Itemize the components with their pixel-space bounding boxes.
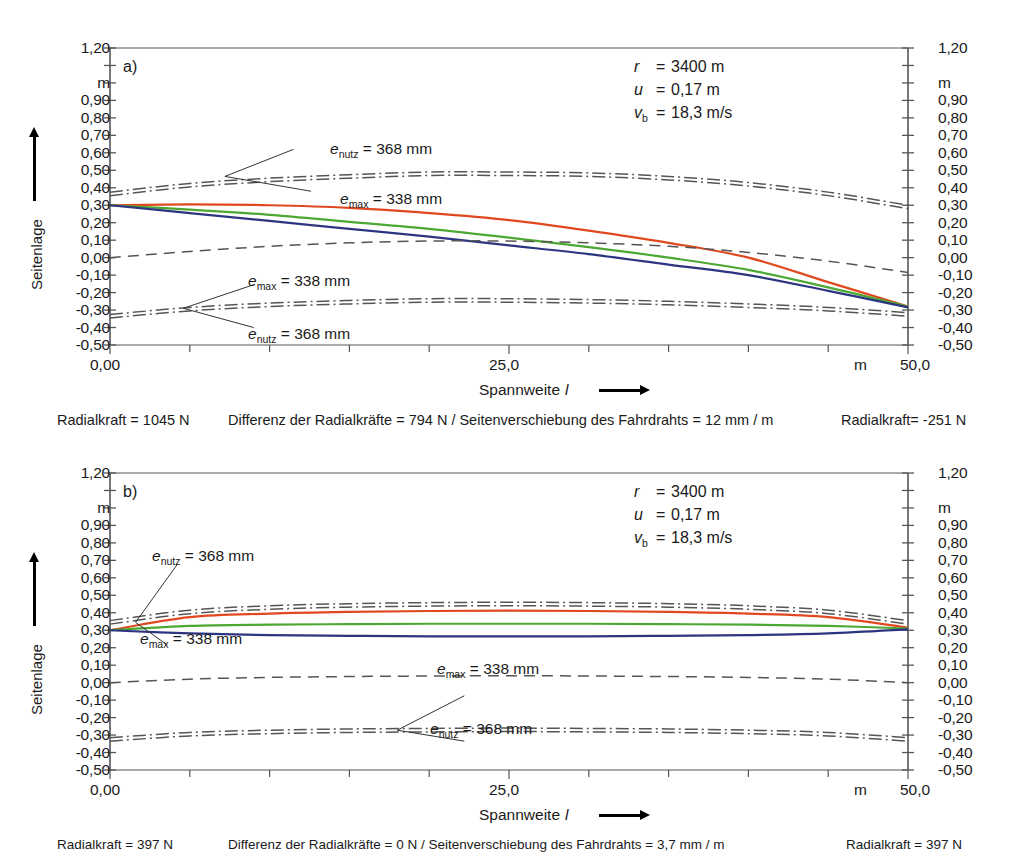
y-tick-label: 0,30 (938, 197, 967, 213)
y-tick-label: 0,90 (938, 517, 967, 533)
annotation-symbol: e (152, 547, 161, 564)
parameter-value-vb-a: 18,3 m/s (671, 104, 732, 121)
caption-left-b: Radialkraft = 397 N (57, 837, 173, 852)
parameter-eq-r-b: = (656, 480, 671, 503)
y-axis-title-a: Seitenlage (28, 219, 45, 290)
parameter-subscript-b-a: b (642, 113, 648, 125)
y-tick-label: 0,20 (938, 215, 967, 231)
annotation-value: = 338 mm (470, 660, 539, 677)
y-tick-label: 0,40 (938, 180, 967, 196)
y-tick-label: 0,90 (81, 517, 110, 533)
y-tick-label: 0,70 (81, 127, 110, 143)
y-tick-label: 1,20 (81, 40, 110, 56)
y-tick-label: 0,50 (81, 162, 110, 178)
y-tick-label: 0,80 (938, 535, 967, 551)
x-axis-title-a: Spannweitel (479, 381, 571, 399)
y-tick-label: -0,40 (76, 745, 110, 761)
parameter-value-vb-b: 18,3 m/s (671, 529, 732, 546)
panel-letter-a: a) (123, 58, 137, 76)
x-tick-label: 0,00 (90, 782, 120, 798)
y-tick-label: 0,20 (81, 215, 110, 231)
y-tick-label: 0,40 (938, 605, 967, 621)
annotation-subscript: nutz (439, 728, 459, 740)
x-tick-label: 50,0 (900, 782, 930, 798)
annotation-value: = 368 mm (363, 140, 432, 157)
y-tick-label: 0,50 (81, 587, 110, 603)
y-tick-label: 0,40 (81, 605, 110, 621)
y-tick-label: -0,20 (938, 710, 972, 726)
parameter-symbol-u-a: u (634, 78, 656, 101)
y-tick-label: -0,50 (938, 762, 972, 778)
y-tick-label: -0,40 (938, 745, 972, 761)
y-tick-label: 0,70 (938, 127, 967, 143)
y-tick-label: -0,50 (76, 337, 110, 353)
y-tick-label: 0,30 (81, 197, 110, 213)
parameter-eq-u-a: = (656, 78, 671, 101)
parameter-block-b: r=3400 m u=0,17 m vb=18,3 m/s (634, 480, 732, 552)
y-tick-label: -0,50 (76, 762, 110, 778)
parameter-value-u-b: 0,17 m (671, 506, 720, 523)
x-tick-label: 25,0 (489, 782, 519, 798)
caption-center-b: Differenz der Radialkräfte = 0 N / Seite… (228, 837, 725, 852)
panel-letter-b: b) (123, 483, 137, 501)
y-tick-label: 0,90 (938, 92, 967, 108)
y-tick-label: 0,00 (81, 250, 110, 266)
y-tick-label: -0,30 (938, 727, 972, 743)
y-tick-label: 0,00 (81, 675, 110, 691)
plot-area-a (0, 0, 1013, 360)
y-tick-label: -0,10 (76, 267, 110, 283)
y-tick-label: 0,80 (81, 535, 110, 551)
y-tick-label: -0,30 (938, 302, 972, 318)
chart-panel-a: Seitenlage 1,200,900,800,700,600,500,400… (0, 0, 1013, 440)
annotation-subscript: max (257, 280, 277, 292)
annotation-value: = 368 mm (281, 325, 350, 342)
parameter-symbol-r-a: r (634, 55, 656, 78)
parameter-block-a: r=3400 m u=0,17 m vb=18,3 m/s (634, 55, 732, 127)
y-tick-label: -0,50 (938, 337, 972, 353)
parameter-value-u-a: 0,17 m (671, 81, 720, 98)
y-tick-label: 0,20 (938, 640, 967, 656)
y-axis-arrow-a (33, 136, 36, 201)
annotation-symbol: e (140, 630, 149, 647)
annotation-e-nutz-upper-b: enutz = 368 mm (152, 547, 254, 567)
annotation-subscript: nutz (257, 333, 277, 345)
y-tick-label: 1,20 (938, 465, 967, 481)
y-tick-label: 0,60 (81, 570, 110, 586)
annotation-e-max-lower-left-b: emax = 338 mm (140, 630, 242, 650)
annotation-subscript: nutz (161, 555, 181, 567)
annotation-e-max-lower-b: emax = 338 mm (437, 660, 539, 680)
y-tick-label: 1,20 (938, 40, 967, 56)
annotation-symbol: e (330, 140, 339, 157)
parameter-symbol-r-b: r (634, 480, 656, 503)
annotation-e-nutz-lower-a: enutz = 368 mm (248, 325, 350, 345)
parameter-row-vb-a: vb=18,3 m/s (634, 101, 732, 126)
y-tick-label: 0,30 (938, 622, 967, 638)
y-tick-label: 0,70 (81, 552, 110, 568)
y-tick-label: -0,20 (76, 710, 110, 726)
x-axis-symbol-a: l (560, 381, 571, 398)
y-tick-label: 0,60 (81, 145, 110, 161)
parameter-eq-u-b: = (656, 503, 671, 526)
parameter-row-u-b: u=0,17 m (634, 503, 732, 526)
annotation-value: = 338 mm (281, 272, 350, 289)
x-axis-title-text-b: Spannweite (479, 806, 560, 823)
y-tick-label: 0,20 (81, 640, 110, 656)
parameter-row-r-a: r=3400 m (634, 55, 732, 78)
y-tick-label: 0,60 (938, 145, 967, 161)
y-tick-label: 0,10 (938, 232, 967, 248)
y-axis-unit: m (938, 75, 951, 91)
parameter-symbol-v-a: v (634, 104, 642, 121)
chart-panel-b: Seitenlage 1,200,900,800,700,600,500,400… (0, 425, 1013, 865)
x-axis-arrow-a (599, 389, 641, 392)
annotation-subscript: nutz (339, 148, 359, 160)
y-tick-label: 0,80 (81, 110, 110, 126)
annotation-e-nutz-lower-b: enutz = 368 mm (430, 720, 532, 740)
y-axis-arrow-b (33, 561, 36, 626)
y-tick-label: -0,30 (76, 727, 110, 743)
y-tick-label: -0,10 (938, 692, 972, 708)
annotation-subscript: max (446, 668, 466, 680)
y-tick-label: -0,10 (76, 692, 110, 708)
annotation-symbol: e (437, 660, 446, 677)
y-tick-label: 0,40 (81, 180, 110, 196)
x-axis-arrow-b (599, 814, 641, 817)
